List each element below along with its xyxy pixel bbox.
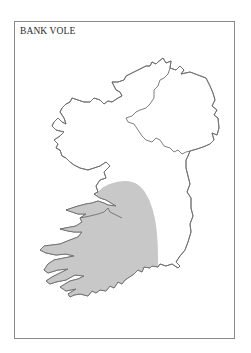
bank-vole-range [30, 181, 158, 300]
ireland-map [0, 0, 251, 353]
